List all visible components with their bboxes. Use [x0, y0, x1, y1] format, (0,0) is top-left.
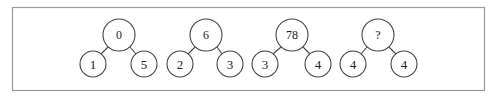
right-value: 4 [401, 57, 408, 72]
top-value-unknown: ? [375, 28, 380, 42]
edge-left [188, 47, 195, 54]
left-value: 3 [262, 57, 269, 72]
left-value: 2 [177, 57, 184, 72]
diagram-frame [13, 8, 485, 91]
puzzle-diagram: 0 1 5 6 2 3 78 3 4 ? 4 4 [0, 0, 495, 96]
edge-right [217, 47, 222, 54]
top-value: 0 [116, 28, 122, 42]
right-value: 3 [227, 57, 234, 72]
tree-3: 78 3 4 [252, 19, 331, 77]
right-value: 4 [315, 57, 322, 72]
tree-2: 6 2 3 [167, 19, 243, 77]
tree-1: 0 1 5 [80, 19, 157, 77]
tree-4: ? 4 4 [340, 19, 417, 77]
edge-right [130, 47, 136, 54]
edge-left [101, 47, 108, 54]
top-value: 78 [286, 28, 298, 42]
edge-right [389, 47, 396, 54]
left-value: 4 [350, 57, 357, 72]
top-value: 6 [203, 28, 209, 42]
edge-left [361, 47, 367, 54]
right-value: 5 [141, 57, 148, 72]
edge-right [303, 47, 310, 54]
left-value: 1 [90, 57, 97, 72]
edge-left [273, 47, 281, 54]
